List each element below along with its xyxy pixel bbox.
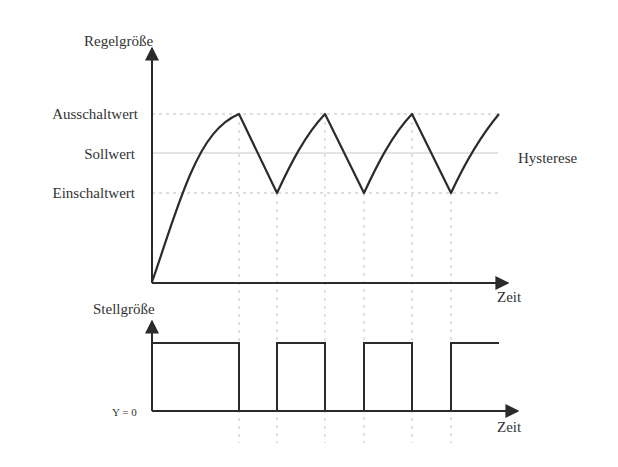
sollwert-label: Sollwert	[84, 147, 135, 162]
vertical-gridlines	[239, 114, 451, 443]
ausschaltwert-label: Ausschaltwert	[52, 107, 138, 122]
hysteresis-annotation: Hysterese	[518, 151, 577, 166]
baseline-label: Y = 0	[112, 407, 137, 418]
lower-y-axis-label: Stellgröße	[93, 302, 155, 317]
upper-x-axis-label: Zeit	[497, 290, 521, 305]
upper-y-axis-label: Regelgröße	[84, 34, 153, 49]
manipulated-variable-signal	[152, 343, 499, 411]
hysteresis-diagram	[0, 0, 618, 467]
einschaltwert-label: Einschaltwert	[53, 186, 135, 201]
lower-x-axis-label: Zeit	[497, 420, 521, 435]
